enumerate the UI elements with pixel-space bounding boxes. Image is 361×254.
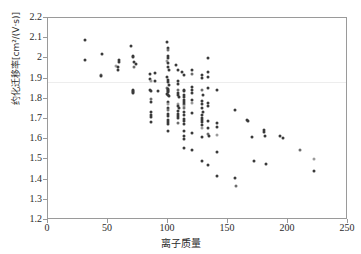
data-point: [234, 176, 237, 179]
y-tick-label: 1.4: [30, 174, 43, 184]
data-point: [200, 160, 203, 163]
data-point: [150, 115, 153, 118]
y-tick-label: 2.2: [30, 12, 43, 22]
data-point: [176, 116, 179, 119]
data-point: [182, 113, 185, 116]
x-tick-label: 250: [340, 223, 355, 233]
data-point: [167, 123, 170, 126]
data-point: [176, 82, 179, 85]
data-point: [182, 147, 185, 150]
data-point: [84, 39, 87, 42]
data-point: [168, 68, 171, 71]
x-tick-label: 200: [280, 223, 295, 233]
data-point: [165, 41, 168, 44]
x-tick-label: 50: [102, 223, 112, 233]
data-point: [206, 120, 209, 123]
y-tick-label: 1.5: [30, 153, 43, 163]
data-point: [216, 122, 219, 125]
data-point: [168, 83, 171, 86]
data-point: [235, 184, 238, 187]
data-point: [182, 73, 185, 76]
data-point: [191, 68, 194, 71]
x-tick-label: 0: [45, 223, 50, 233]
y-axis-title: 约化迁移率[cm²/(V·s)]: [9, 0, 22, 126]
data-point: [206, 164, 209, 167]
data-point: [191, 101, 194, 104]
data-point: [251, 136, 254, 139]
data-point: [313, 158, 316, 161]
data-point: [200, 127, 203, 130]
data-point: [153, 71, 156, 74]
y-tick-label: 1.8: [30, 93, 43, 103]
y-tick-label: 1.9: [30, 73, 43, 83]
data-point: [182, 89, 185, 92]
data-points-layer: [48, 18, 346, 218]
y-tick-label: 1.2: [30, 214, 43, 224]
data-point: [216, 126, 219, 129]
data-point: [206, 104, 209, 107]
data-point: [206, 70, 209, 73]
data-point: [253, 160, 256, 163]
data-point: [182, 130, 185, 133]
scatter-chart: 1.21.31.41.51.61.71.81.922.12.2 05010015…: [0, 0, 361, 254]
data-point: [206, 75, 209, 78]
data-point: [206, 57, 209, 60]
data-point: [182, 138, 185, 141]
data-point: [150, 89, 153, 92]
data-point: [216, 88, 219, 91]
data-point: [132, 91, 135, 94]
data-point: [167, 102, 170, 105]
data-point: [207, 135, 210, 138]
data-point: [263, 131, 266, 134]
data-point: [191, 149, 194, 152]
data-point: [150, 100, 153, 103]
data-point: [182, 123, 185, 126]
data-point: [200, 102, 203, 105]
data-point: [84, 59, 87, 62]
data-point: [167, 108, 170, 111]
data-point: [278, 135, 281, 138]
data-point: [176, 68, 179, 71]
data-point: [117, 61, 120, 64]
data-point: [99, 74, 102, 77]
y-tick-label: 1.3: [30, 194, 43, 204]
data-point: [264, 135, 267, 138]
x-axis-title: 离子质量: [0, 235, 361, 250]
data-point: [182, 106, 185, 109]
data-point: [216, 151, 219, 154]
data-point: [191, 132, 194, 135]
data-point: [168, 94, 171, 97]
data-point: [191, 111, 194, 114]
data-point: [153, 79, 156, 82]
data-point: [313, 169, 316, 172]
data-point: [200, 76, 203, 79]
data-point: [150, 121, 153, 124]
data-point: [200, 136, 203, 139]
data-point: [200, 106, 203, 109]
y-tick-label: 1.7: [30, 113, 43, 123]
data-point: [149, 72, 152, 75]
plot-area: [47, 17, 347, 219]
data-point: [176, 122, 179, 125]
data-point: [101, 53, 104, 56]
data-point: [282, 137, 285, 140]
data-point: [167, 130, 170, 133]
data-point: [175, 64, 178, 67]
data-point: [191, 91, 194, 94]
data-point: [201, 93, 204, 96]
y-tick-label: 2.1: [30, 32, 43, 42]
data-point: [265, 163, 268, 166]
x-tick-label: 100: [160, 223, 175, 233]
data-point: [150, 79, 153, 82]
data-point: [234, 108, 237, 111]
data-point: [129, 45, 132, 48]
data-point: [177, 95, 180, 98]
data-point: [167, 49, 170, 52]
data-point: [133, 66, 136, 69]
data-point: [191, 72, 194, 75]
data-point: [206, 127, 209, 130]
y-tick-label: 2: [37, 52, 42, 62]
data-point: [299, 149, 302, 152]
data-point: [216, 134, 219, 137]
data-point: [116, 68, 119, 71]
